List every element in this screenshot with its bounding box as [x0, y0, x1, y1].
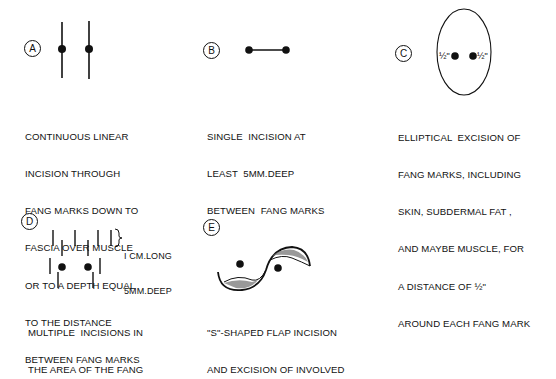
caption-line: LEAST 5mm.DEEP	[207, 168, 325, 180]
caption-line: A DISTANCE OF ½"	[398, 281, 530, 293]
caption-line: BETWEEN FANG MARKS	[207, 205, 325, 217]
caption-line: INCISION THROUGH	[25, 168, 140, 180]
length-label: I cm.LONG	[124, 251, 172, 263]
caption-line: THE AREA OF THE FANG	[28, 364, 179, 376]
panel-label-c: C	[395, 45, 412, 62]
caption-d: MULTIPLE INCISIONS IN THE AREA OF THE FA…	[28, 302, 179, 379]
linear-incision-icon	[50, 18, 100, 83]
caption-line: SKIN, SUBDERMAL FAT ,	[398, 206, 530, 218]
panel-label-e: E	[203, 219, 220, 236]
s-shaped-flap-icon	[212, 244, 312, 294]
caption-line: AND MAYBE MUSCLE, FOR	[398, 243, 530, 255]
depth-label: 5mm.DEEP	[124, 286, 172, 298]
panel-label-a: A	[24, 40, 41, 57]
caption-line: FANG MARKS, INCLUDING	[398, 169, 530, 181]
panel-label-b: B	[203, 42, 220, 59]
caption-line: FANG MARKS DOWN TO	[25, 205, 140, 217]
caption-line: AND EXCISION OF INVOLVED	[207, 364, 355, 376]
caption-line: ELLIPTICAL EXCISION OF	[398, 132, 530, 144]
caption-line: CONTINUOUS LINEAR	[25, 131, 140, 143]
caption-e: "S"-SHAPED FLAP INCISION AND EXCISION OF…	[207, 302, 355, 379]
caption-line: SINGLE INCISION AT	[207, 131, 325, 143]
panel-label-d: D	[21, 213, 38, 230]
caption-line: MULTIPLE INCISIONS IN	[28, 327, 179, 339]
single-incision-icon	[245, 44, 295, 56]
caption-line: "S"-SHAPED FLAP INCISION	[207, 327, 355, 339]
half-inch-label-left: ½"	[439, 51, 450, 61]
caption-b: SINGLE INCISION AT LEAST 5mm.DEEP BETWEE…	[207, 106, 325, 242]
half-inch-label-right: ½"	[477, 51, 488, 61]
caption-line: AROUND EACH FANG MARK	[398, 318, 530, 330]
elliptical-excision-icon: ½" ½"	[434, 6, 494, 98]
caption-c: ELLIPTICAL EXCISION OF FANG MARKS, INCLU…	[398, 107, 530, 355]
